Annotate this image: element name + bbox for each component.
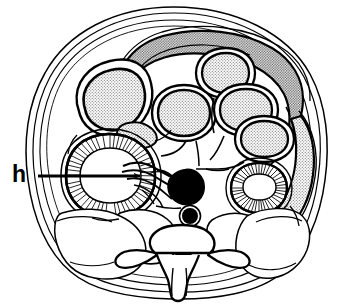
vertebral-body bbox=[150, 225, 215, 253]
figure-root: h bbox=[0, 0, 345, 305]
aorta bbox=[180, 206, 201, 227]
anatomical-cross-section-diagram bbox=[0, 0, 345, 305]
label-h: h bbox=[12, 163, 26, 186]
